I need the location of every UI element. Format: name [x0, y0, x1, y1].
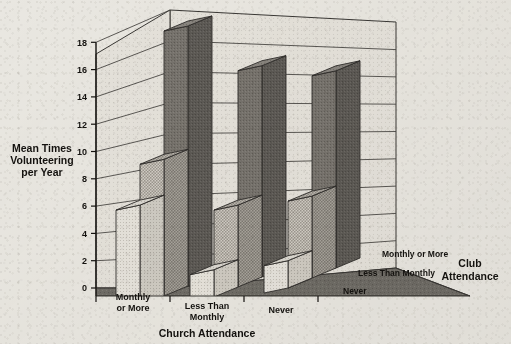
y-tick-label: 16 [77, 65, 87, 75]
y-tick-label: 0 [82, 283, 87, 293]
y-axis-title-line3: per Year [21, 166, 62, 178]
x-axis-title: Church Attendance [159, 327, 256, 339]
z-axis-title-line2: Attendance [441, 270, 498, 282]
y-tick-label: 10 [77, 147, 87, 157]
y-tick-label: 14 [77, 92, 87, 102]
x-category-label-less-than-monthly: Less Than Monthly [185, 301, 230, 322]
y-axis-title: Mean Times Volunteering per Year [10, 142, 73, 178]
z-category-label-monthly-or-more: Monthly or More [382, 249, 448, 259]
y-tick-label: 8 [82, 174, 87, 184]
bar-chart-3d: 18 16 14 12 10 8 6 4 2 0 [0, 0, 511, 344]
x-cat-line1: Monthly [116, 292, 151, 302]
z-cat-label: Monthly or More [382, 249, 448, 259]
y-axis-title-line1: Mean Times [12, 142, 72, 154]
x-cat-line1: Never [268, 305, 294, 315]
z-axis-title: Club Attendance [441, 257, 498, 282]
x-cat-line2: or More [116, 303, 149, 313]
y-tick-label: 12 [77, 120, 87, 130]
x-category-label-monthly-or-more: Monthly or More [116, 292, 151, 313]
z-cat-label: Less Than Monthly [358, 268, 435, 278]
z-cat-label: Never [343, 286, 367, 296]
y-axis-title-line2: Volunteering [10, 154, 73, 166]
y-tick-label: 4 [82, 229, 87, 239]
x-cat-line2: Monthly [190, 312, 225, 322]
y-axis: 18 16 14 12 10 8 6 4 2 0 [77, 38, 96, 294]
chart-canvas: 18 16 14 12 10 8 6 4 2 0 [0, 0, 511, 344]
y-tick-label: 6 [82, 201, 87, 211]
x-category-label-never: Never [268, 305, 294, 315]
z-category-label-less-than-monthly: Less Than Monthly [358, 268, 435, 278]
z-category-label-never: Never [343, 286, 367, 296]
y-tick-label: 2 [82, 256, 87, 266]
z-axis-title-line1: Club [458, 257, 481, 269]
x-cat-line1: Less Than [185, 301, 230, 311]
y-tick-label: 18 [77, 38, 87, 48]
